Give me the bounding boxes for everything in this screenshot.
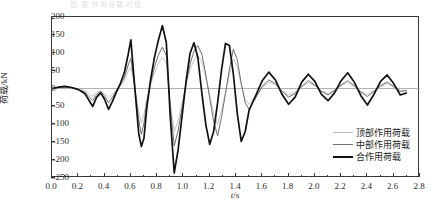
legend-label: 合作用荷载 bbox=[356, 150, 401, 163]
x-axis-label-unit: /s bbox=[233, 190, 239, 200]
legend-item: 合作用荷载 bbox=[333, 151, 410, 162]
x-tick-mark bbox=[419, 173, 420, 177]
x-tick-mark-minor bbox=[196, 175, 197, 177]
x-tick-mark-minor bbox=[248, 175, 249, 177]
y-tick-mark bbox=[51, 105, 55, 106]
y-tick-mark bbox=[51, 34, 55, 35]
x-tick-label: 1.6 bbox=[256, 181, 267, 191]
x-tick-mark-minor bbox=[90, 175, 91, 177]
x-tick-mark bbox=[340, 173, 341, 177]
y-tick-mark bbox=[51, 123, 55, 124]
x-tick-label: 1.8 bbox=[282, 181, 293, 191]
x-tick-label: 2.0 bbox=[308, 181, 319, 191]
x-tick-label: 1.2 bbox=[203, 181, 214, 191]
x-tick-label: 0.2 bbox=[72, 181, 83, 191]
x-tick-label: 2.6 bbox=[387, 181, 398, 191]
x-tick-mark bbox=[182, 173, 183, 177]
y-tick-mark bbox=[51, 159, 55, 160]
x-tick-mark bbox=[393, 173, 394, 177]
x-tick-label: 0.0 bbox=[45, 181, 56, 191]
x-tick-mark bbox=[51, 173, 52, 177]
x-tick-mark-minor bbox=[143, 175, 144, 177]
x-tick-mark bbox=[235, 173, 236, 177]
x-tick-mark bbox=[209, 173, 210, 177]
x-tick-mark bbox=[314, 173, 315, 177]
y-tick-mark bbox=[51, 88, 55, 89]
x-tick-mark-minor bbox=[169, 175, 170, 177]
x-tick-label: 0.8 bbox=[151, 181, 162, 191]
legend-line-swatch bbox=[333, 144, 353, 145]
x-tick-mark bbox=[130, 173, 131, 177]
x-tick-mark-minor bbox=[327, 175, 328, 177]
x-tick-label: 0.4 bbox=[98, 181, 109, 191]
x-tick-mark bbox=[156, 173, 157, 177]
x-tick-mark-minor bbox=[353, 175, 354, 177]
x-tick-mark bbox=[261, 173, 262, 177]
x-tick-label: 0.6 bbox=[124, 181, 135, 191]
legend-line-swatch bbox=[333, 156, 353, 158]
x-tick-label: 2.8 bbox=[413, 181, 424, 191]
x-tick-label: 2.4 bbox=[361, 181, 372, 191]
x-tick-mark-minor bbox=[64, 175, 65, 177]
y-tick-mark bbox=[51, 70, 55, 71]
legend-line-swatch bbox=[333, 132, 353, 133]
chart-figure: 图 载 作用荷载 时程 200150100500–50–100–150–200–… bbox=[0, 0, 439, 208]
x-tick-mark-minor bbox=[380, 175, 381, 177]
y-tick-mark bbox=[51, 141, 55, 142]
x-tick-mark bbox=[288, 173, 289, 177]
x-tick-mark-minor bbox=[222, 175, 223, 177]
cropped-caption-fragment: 图 载 作用荷载 时程 bbox=[70, 0, 380, 8]
x-tick-mark-minor bbox=[406, 175, 407, 177]
y-tick-mark bbox=[51, 52, 55, 53]
x-tick-mark-minor bbox=[274, 175, 275, 177]
legend-item: 中部作用荷载 bbox=[333, 139, 410, 150]
x-axis-label: t/s bbox=[231, 190, 240, 200]
x-tick-label: 1.0 bbox=[177, 181, 188, 191]
y-tick-mark bbox=[51, 16, 55, 17]
x-tick-mark bbox=[77, 173, 78, 177]
x-tick-mark bbox=[104, 173, 105, 177]
legend-item: 顶部作用荷载 bbox=[333, 127, 410, 138]
y-tick-mark bbox=[51, 177, 55, 178]
x-tick-mark-minor bbox=[117, 175, 118, 177]
x-tick-mark bbox=[366, 173, 367, 177]
chart-legend: 顶部作用荷载中部作用荷载合作用荷载 bbox=[333, 127, 410, 162]
x-tick-mark-minor bbox=[301, 175, 302, 177]
x-tick-label: 2.2 bbox=[335, 181, 346, 191]
y-axis-label: 荷载/kN bbox=[0, 72, 10, 104]
